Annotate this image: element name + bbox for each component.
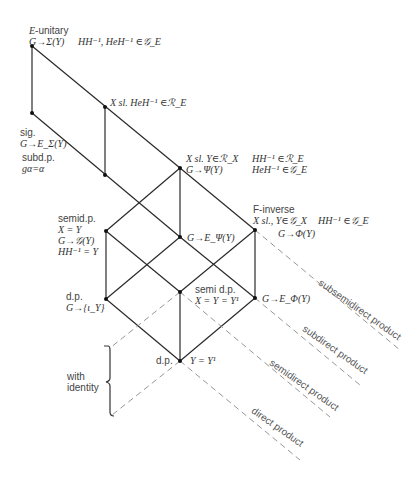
e-unitary-title-rest: -unitary bbox=[35, 25, 68, 36]
label-x-sl-mid-cond2: HeH⁻¹ ∈𝒢_E bbox=[252, 164, 307, 175]
label-dp-bottom-eq: Y = Y¹ bbox=[190, 355, 216, 366]
label-dp-left-map: G→{ι_Y} bbox=[66, 302, 105, 313]
edge-gephi-dpbottom bbox=[180, 298, 255, 361]
label-f-inverse-cond: HH⁻¹ ∈𝒢_E bbox=[318, 215, 369, 226]
label-identity: identity bbox=[67, 382, 99, 393]
label-x-sl-mid-1: X sl. Y∈ℛ_X bbox=[186, 153, 238, 164]
edge-xslmid-finverse bbox=[180, 168, 255, 230]
identity-brace bbox=[104, 346, 114, 416]
label-f-inverse-1: X sl., Y∈𝒢_X bbox=[253, 215, 307, 226]
label-semidp-2: G→𝒢(Y) bbox=[58, 235, 94, 246]
label-x-sl-mid-cond1: HH⁻¹ ∈ℛ_E bbox=[252, 153, 304, 164]
label-e-unitary-map: G→Σ(Y) bbox=[29, 36, 64, 47]
label-f-inverse-title: F-inverse bbox=[253, 204, 295, 215]
label-g-e-phi: G→E_Φ(Y) bbox=[262, 293, 310, 304]
lattice-edges bbox=[32, 46, 255, 361]
label-semidp-3: HH⁻¹ = Y bbox=[58, 246, 98, 257]
label-semidp-1: X = Y bbox=[58, 224, 81, 235]
node-x-sl-top bbox=[103, 105, 107, 109]
label-f-inverse-map: G→Φ(Y) bbox=[278, 228, 315, 239]
node-sig bbox=[30, 111, 34, 115]
label-subdp-title: subd.p. bbox=[22, 152, 55, 163]
node-x-sl-mid bbox=[178, 166, 182, 170]
label-g-e-psi: G→E_Ψ(Y) bbox=[187, 232, 235, 243]
label-subdp-eq: gα=α bbox=[22, 163, 44, 174]
node-semi-dp bbox=[178, 290, 182, 294]
label-semi-dp-eq: X = Y = Y¹ bbox=[195, 295, 239, 306]
label-e-unitary-title: E-unitary bbox=[29, 25, 68, 36]
node-semidp bbox=[104, 229, 108, 233]
edge-semidp-semidp2 bbox=[106, 231, 180, 292]
label-dp-left-title: d.p. bbox=[66, 291, 83, 302]
label-semidp-title: semid.p. bbox=[58, 213, 96, 224]
label-sig-title: sig. bbox=[20, 127, 36, 138]
edge-xslmid-semidp bbox=[106, 168, 180, 231]
label-x-sl-mid-2: G→Ψ(Y) bbox=[186, 164, 222, 175]
label-x-sl-top: X sl. HeH⁻¹ ∈ℛ_E bbox=[110, 97, 186, 108]
label-dp-bottom-title: d.p. bbox=[156, 355, 173, 366]
label-sig-map: G→E_Σ(Y) bbox=[20, 138, 67, 149]
edge-gepsi-dpleft bbox=[106, 237, 180, 299]
node-dp-bottom bbox=[178, 359, 182, 363]
node-dp-left bbox=[104, 297, 108, 301]
edge-dpleft-dpbottom bbox=[106, 299, 180, 361]
node-g-e-phi bbox=[253, 296, 257, 300]
dash-dpbottom-identity bbox=[112, 361, 180, 415]
label-e-unitary-cond: HH⁻¹, HeH⁻¹ ∈𝒢_E bbox=[78, 36, 161, 47]
label-with: with bbox=[67, 371, 85, 382]
dash-semidp2-identity bbox=[110, 292, 180, 348]
label-semi-dp-title: semi d.p. bbox=[195, 284, 236, 295]
dash-gephi-subdirect bbox=[255, 298, 360, 385]
node-f-inverse bbox=[253, 228, 257, 232]
node-g-e-psi bbox=[178, 235, 182, 239]
node-subdp bbox=[103, 173, 107, 177]
